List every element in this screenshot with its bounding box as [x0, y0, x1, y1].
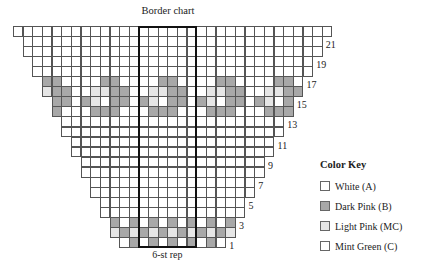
row-number-label: 11 — [278, 141, 288, 151]
row-number-label: 19 — [316, 60, 326, 70]
key-item-dark-pink: Dark Pink (B) — [320, 196, 402, 216]
chart-cell — [312, 46, 322, 57]
chart-cell — [274, 127, 284, 138]
key-label: White (A) — [335, 181, 376, 192]
key-label: Mint Green (C) — [335, 241, 397, 252]
chart-cell — [283, 106, 293, 117]
row-number-label: 7 — [258, 181, 263, 191]
key-label: Dark Pink (B) — [335, 201, 392, 212]
chart-cell — [303, 66, 313, 77]
key-item-white: White (A) — [320, 176, 402, 196]
color-key: Color Key White (A) Dark Pink (B) Light … — [320, 159, 402, 256]
chart-cell — [264, 147, 274, 158]
swatch-mint-green-icon — [320, 241, 330, 251]
swatch-dark-pink-icon — [320, 201, 330, 211]
row-number-label: 9 — [268, 161, 273, 171]
key-label: Light Pink (MC) — [335, 221, 402, 232]
color-key-title: Color Key — [320, 159, 402, 170]
chart-cell — [322, 26, 332, 37]
row-number-label: 3 — [239, 221, 244, 231]
row-number-label: 21 — [326, 40, 336, 50]
chart-cell — [254, 167, 264, 178]
chart-cell — [225, 227, 235, 238]
key-item-light-pink: Light Pink (MC) — [320, 216, 402, 236]
chart-cell — [293, 86, 303, 97]
swatch-light-pink-icon — [320, 221, 330, 231]
row-number-label: 13 — [287, 120, 297, 130]
swatch-white-icon — [320, 181, 330, 191]
chart-cell — [216, 237, 226, 248]
row-number-label: 5 — [249, 201, 254, 211]
repeat-label: 6-st rep — [128, 249, 206, 260]
chart-cell — [235, 207, 245, 218]
row-number-label: 1 — [229, 241, 234, 251]
chart-cell — [245, 187, 255, 198]
row-number-label: 15 — [297, 100, 307, 110]
row-number-label: 17 — [307, 80, 317, 90]
key-item-mint-green: Mint Green (C) — [320, 236, 402, 256]
